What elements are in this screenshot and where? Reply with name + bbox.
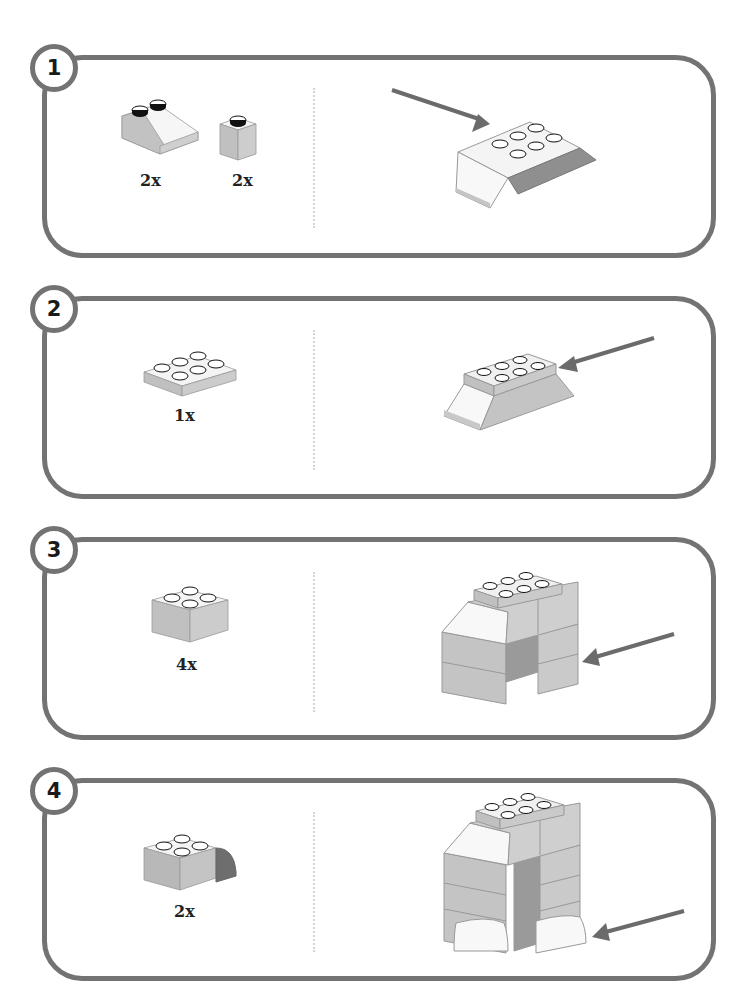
step-4-divider (313, 812, 315, 952)
step-4-part-1-qty: 2x (174, 902, 195, 921)
step-2-number-badge: 2 (30, 285, 78, 333)
brick-1x1-icon (218, 114, 258, 162)
step-1-result-assembly (390, 88, 620, 203)
step-3-result-assembly (438, 572, 678, 707)
step-3-divider (313, 572, 315, 712)
step-1-number-badge: 1 (30, 44, 78, 92)
step-1-part-2-qty: 2x (232, 171, 253, 190)
step-4-result-assembly (440, 793, 690, 958)
step-2-divider (313, 330, 315, 470)
plate-2x3-icon (142, 350, 238, 398)
step-3-part-1-qty: 4x (176, 655, 197, 674)
step-2-part-1-qty: 1x (174, 406, 195, 425)
slope-brick-icon (118, 96, 203, 156)
curved-brick-2x2-icon (142, 830, 238, 892)
step-1-part-1-qty: 2x (140, 171, 161, 190)
step-1-divider (313, 88, 315, 228)
brick-2x2-icon (150, 582, 230, 644)
step-4-number-badge: 4 (30, 767, 78, 815)
step-3-number-badge: 3 (30, 526, 78, 574)
step-2-result-assembly (444, 330, 660, 435)
